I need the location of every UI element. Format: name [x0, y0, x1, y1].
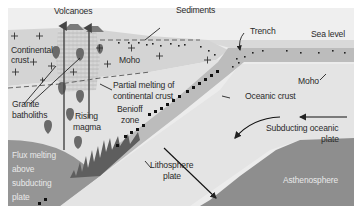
label-oceanic-crust: Oceanic crust — [245, 91, 296, 101]
label-continental-crust-2: crust — [11, 55, 30, 65]
label-flux-melting-1: Flux melting — [12, 150, 56, 160]
label-continental-crust-1: Continental — [11, 45, 53, 55]
label-benioff-1: Benioff — [117, 104, 143, 114]
label-lithosphere-1: Lithosphere — [150, 160, 194, 170]
label-flux-melting-3: subducting — [12, 178, 52, 188]
label-moho-right: Moho — [298, 76, 319, 86]
label-granite-1: Granite — [12, 99, 40, 109]
label-granite-2: batholiths — [12, 110, 47, 120]
label-sediments: Sediments — [176, 5, 215, 15]
label-asthenosphere: Asthenosphere — [283, 175, 338, 185]
label-lithosphere-2: plate — [163, 171, 181, 181]
label-moho-left: Moho — [119, 55, 140, 65]
label-flux-melting-2: above — [12, 164, 35, 174]
subduction-zone-diagram: Volcanoes Sediments Trench Sea level Con… — [0, 0, 362, 215]
label-rising-magma-2: magma — [73, 122, 101, 132]
label-subducting-plate-2: plate — [321, 134, 339, 144]
label-partial-melting-1: Partial melting of — [113, 80, 175, 90]
label-trench: Trench — [250, 26, 276, 36]
label-flux-melting-4: plate — [12, 192, 30, 202]
label-volcanoes: Volcanoes — [54, 6, 92, 16]
label-sea-level: Sea level — [311, 29, 345, 39]
label-rising-magma-1: Rising — [75, 111, 98, 121]
label-benioff-2: zone — [121, 115, 139, 125]
label-subducting-plate-1: Subducting oceanic — [266, 123, 339, 133]
label-partial-melting-2: continental crust — [113, 91, 174, 101]
